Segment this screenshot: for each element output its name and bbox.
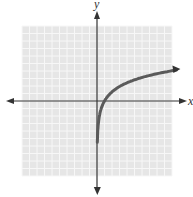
y-axis-arrow-up-icon (94, 11, 100, 19)
x-axis-label: x (188, 94, 193, 109)
y-axis-label: y (94, 0, 99, 12)
x-axis-arrow-left-icon (6, 98, 14, 104)
curve-arrow-down-icon (94, 187, 101, 195)
curve-arrow-right-icon (172, 66, 180, 74)
x-axis-arrow-right-icon (179, 98, 187, 104)
graph (0, 0, 193, 197)
